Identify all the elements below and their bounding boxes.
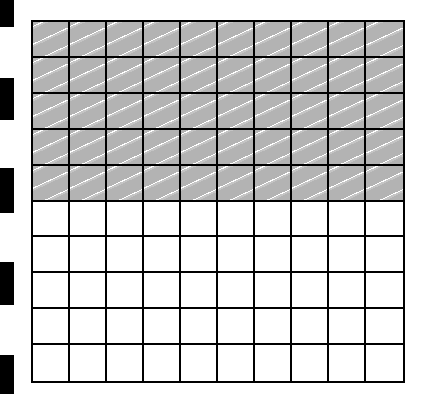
empty-cell [70,309,107,345]
empty-cell [218,202,255,238]
empty-cell [366,273,403,309]
empty-cell [292,273,329,309]
empty-cell [70,237,107,273]
empty-cell [144,345,181,381]
empty-cell [218,345,255,381]
shaded-cell [70,94,107,130]
empty-cell [292,309,329,345]
empty-cell [70,345,107,381]
empty-cell [107,202,144,238]
empty-cell [255,202,292,238]
shaded-cell [70,58,107,94]
shaded-cell [107,22,144,58]
binder-hole-mark [0,168,14,213]
empty-cell [144,309,181,345]
shaded-cell [255,166,292,202]
empty-cell [218,273,255,309]
shaded-cell [107,58,144,94]
shaded-cell [329,166,366,202]
shaded-cell [366,58,403,94]
shaded-cell [292,22,329,58]
empty-cell [366,202,403,238]
empty-cell [70,202,107,238]
empty-cell [144,237,181,273]
shaded-cell [366,130,403,166]
empty-cell [181,202,218,238]
empty-cell [181,345,218,381]
empty-cell [144,202,181,238]
shaded-cell [33,22,70,58]
empty-cell [329,345,366,381]
binder-hole-mark [0,262,14,305]
empty-cell [366,237,403,273]
empty-cell [107,345,144,381]
empty-cell [292,345,329,381]
empty-cell [107,237,144,273]
shaded-cell [181,166,218,202]
shaded-cell [329,94,366,130]
empty-cell [255,273,292,309]
shaded-cell [292,58,329,94]
shaded-cell [366,22,403,58]
shaded-cell [144,58,181,94]
empty-cell [33,237,70,273]
shaded-cell [33,130,70,166]
empty-cell [329,273,366,309]
empty-cell [292,202,329,238]
shaded-cell [292,130,329,166]
shaded-cell [144,94,181,130]
shaded-cell [181,130,218,166]
empty-cell [255,237,292,273]
shaded-cell [255,58,292,94]
shaded-cell [329,22,366,58]
empty-cell [33,345,70,381]
shaded-cell [144,166,181,202]
empty-cell [255,345,292,381]
binder-hole-mark [0,0,14,27]
shaded-cell [107,166,144,202]
binder-hole-mark [0,78,14,120]
empty-cell [292,237,329,273]
shaded-cell [181,22,218,58]
shaded-cell [366,94,403,130]
empty-cell [329,202,366,238]
binder-hole-mark [0,355,14,394]
shaded-cell [218,58,255,94]
shaded-cell [292,94,329,130]
empty-cell [329,237,366,273]
shaded-cell [107,94,144,130]
shaded-cell [218,130,255,166]
shaded-cell [144,22,181,58]
shaded-cell [70,22,107,58]
shaded-cell [181,58,218,94]
shaded-cell [70,166,107,202]
shaded-cell [33,94,70,130]
empty-cell [107,273,144,309]
empty-cell [218,309,255,345]
shaded-cell [255,94,292,130]
hundred-grid [31,20,405,383]
empty-cell [218,237,255,273]
empty-cell [33,309,70,345]
empty-cell [329,309,366,345]
shaded-cell [218,166,255,202]
empty-cell [366,309,403,345]
empty-cell [181,273,218,309]
shaded-cell [107,130,144,166]
empty-cell [107,309,144,345]
shaded-cell [366,166,403,202]
shaded-cell [329,130,366,166]
shaded-cell [292,166,329,202]
shaded-cell [218,94,255,130]
empty-cell [366,345,403,381]
shaded-cell [255,130,292,166]
empty-cell [181,309,218,345]
shaded-cell [70,130,107,166]
shaded-cell [33,166,70,202]
shaded-cell [144,130,181,166]
empty-cell [144,273,181,309]
shaded-cell [33,58,70,94]
shaded-cell [181,94,218,130]
shaded-cell [329,58,366,94]
empty-cell [33,273,70,309]
